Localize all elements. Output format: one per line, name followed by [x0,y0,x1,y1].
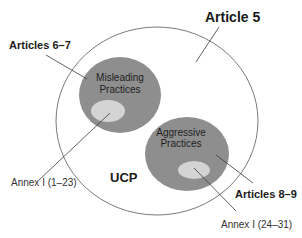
articles-6-7-label: Articles 6–7 [9,39,71,51]
annex-1-23-label: Annex I (1–23) [11,177,77,188]
misleading-title-line1: Misleading [96,72,144,83]
misleading-title-line2: Practices [99,84,140,95]
annex-24-31-ellipse [178,161,210,179]
aggressive-title-line2: Practices [160,138,201,149]
article-5-label: Article 5 [205,9,260,25]
articles-8-9-label: Articles 8–9 [235,188,297,200]
annex-24-31-label: Annex I (24–31) [221,219,292,230]
aggressive-title-line1: Aggressive [156,127,206,138]
leader-line-annex-1-23 [39,113,110,180]
ucp-label: UCP [110,170,138,185]
ucp-venn-diagram: Article 5 Articles 6–7 Misleading Practi… [0,0,302,238]
annex-1-23-ellipse [91,100,125,122]
ucp-outer-set [56,27,258,215]
misleading-practices-circle [79,57,161,133]
